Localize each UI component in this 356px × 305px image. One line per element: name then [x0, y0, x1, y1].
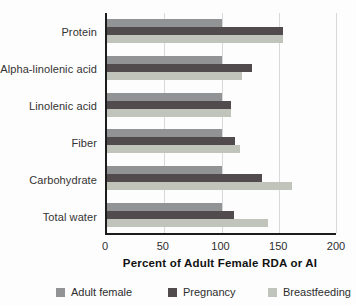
bar-breastfeeding-fiber	[107, 145, 240, 153]
bar-adult-female-total-water	[107, 203, 222, 211]
x-tick-label-150: 150	[269, 240, 287, 252]
bar-group-total-water	[107, 196, 336, 233]
bar-pregnancy-linolenic-acid	[107, 101, 231, 109]
bar-pregnancy-carbohydrate	[107, 174, 262, 182]
bar-breastfeeding-linolenic-acid	[107, 109, 231, 117]
legend-swatch-adult-female	[56, 288, 65, 297]
category-label-protein: Protein	[0, 13, 97, 50]
legend-item-breastfeeding: Breastfeeding	[268, 286, 351, 298]
x-axis-ticks: 050100150200	[105, 240, 336, 253]
category-label-linolenic-acid: Linolenic acid	[0, 87, 97, 124]
x-tick-label-0: 0	[102, 240, 108, 252]
bar-group-alpha-linolenic-acid	[107, 50, 336, 87]
x-axis-title: Percent of Adult Female RDA or AI	[90, 257, 350, 269]
category-label-carbohydrate: Carbohydrate	[0, 161, 97, 198]
bar-breastfeeding-protein	[107, 35, 283, 43]
chart-legend: Adult femalePregnancyBreastfeeding	[0, 286, 356, 300]
legend-swatch-pregnancy	[168, 288, 177, 297]
bar-pregnancy-fiber	[107, 137, 235, 145]
legend-label-breastfeeding: Breastfeeding	[283, 286, 351, 298]
bar-breastfeeding-carbohydrate	[107, 182, 292, 190]
x-tick-label-50: 50	[157, 240, 169, 252]
bar-breastfeeding-alpha-linolenic-acid	[107, 72, 242, 80]
legend-swatch-breastfeeding	[268, 288, 277, 297]
legend-label-adult-female: Adult female	[71, 286, 132, 298]
bar-pregnancy-alpha-linolenic-acid	[107, 64, 252, 72]
x-tick-label-100: 100	[211, 240, 229, 252]
bar-adult-female-carbohydrate	[107, 166, 222, 174]
bar-group-fiber	[107, 123, 336, 160]
category-label-fiber: Fiber	[0, 124, 97, 161]
category-label-alpha-linolenic-acid: Alpha-linolenic acid	[0, 50, 97, 87]
x-tick-label-200: 200	[327, 240, 345, 252]
category-axis-labels: ProteinAlpha-linolenic acidLinolenic aci…	[0, 13, 97, 235]
legend-label-pregnancy: Pregnancy	[183, 286, 236, 298]
bar-rows	[107, 13, 336, 233]
legend-item-pregnancy: Pregnancy	[168, 286, 236, 298]
category-label-total-water: Total water	[0, 198, 97, 235]
plot-area	[105, 13, 336, 235]
bar-pregnancy-total-water	[107, 211, 234, 219]
bar-adult-female-fiber	[107, 129, 222, 137]
bar-adult-female-protein	[107, 19, 222, 27]
bar-group-linolenic-acid	[107, 86, 336, 123]
gridline-200	[336, 13, 337, 233]
bar-pregnancy-protein	[107, 27, 283, 35]
bar-group-carbohydrate	[107, 160, 336, 197]
bar-breastfeeding-total-water	[107, 219, 268, 227]
legend-item-adult-female: Adult female	[56, 286, 132, 298]
bar-group-protein	[107, 13, 336, 50]
rda-bar-chart-figure: ProteinAlpha-linolenic acidLinolenic aci…	[0, 0, 356, 305]
bar-adult-female-alpha-linolenic-acid	[107, 56, 222, 64]
bar-adult-female-linolenic-acid	[107, 93, 222, 101]
